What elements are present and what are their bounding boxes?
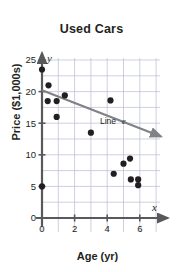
y-tick-label: 5 (31, 181, 36, 192)
x-tick-label: 4 (105, 223, 110, 234)
trendline-label: Line (100, 116, 116, 126)
data-point (54, 114, 60, 120)
data-point (54, 98, 60, 104)
y-tick-label: 15 (25, 118, 36, 129)
data-point (39, 183, 45, 189)
y-axis-variable: y (46, 52, 52, 64)
trendline: Linee (42, 90, 161, 136)
data-point (107, 97, 113, 103)
data-points (39, 66, 141, 189)
data-point (128, 176, 134, 182)
data-point (62, 92, 68, 98)
scatter-plot: 05101520250246 Linee yx (0, 0, 183, 272)
data-point (127, 155, 133, 161)
x-axis-variable: x (151, 201, 157, 213)
axes (36, 53, 168, 226)
data-point (135, 182, 141, 188)
y-tick-label: 25 (25, 54, 36, 65)
data-point (88, 130, 94, 136)
data-point (120, 161, 126, 167)
data-point (45, 82, 51, 88)
data-point (135, 176, 141, 182)
x-tick-label: 6 (137, 223, 142, 234)
y-tick-label: 20 (25, 86, 36, 97)
x-tick-label: 0 (39, 223, 44, 234)
x-tick-label: 2 (72, 223, 77, 234)
data-point (39, 66, 45, 72)
chart-container: Used Cars Price ($1,000s) Age (yr) 05101… (0, 0, 183, 272)
trendline-label-variable: e (122, 116, 126, 126)
data-point (45, 98, 51, 104)
trendline-segment (42, 90, 161, 136)
y-tick-label: 0 (31, 212, 36, 223)
gridlines (42, 58, 160, 232)
data-point (111, 171, 117, 177)
y-tick-label: 10 (25, 149, 36, 160)
